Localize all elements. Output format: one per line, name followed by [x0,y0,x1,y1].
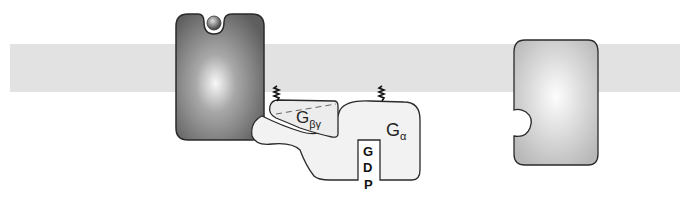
active-receptor [176,14,264,140]
g-alpha-label: G [386,120,400,140]
gdp-letter-g: G [363,144,373,159]
g-alpha-subscript: α [400,130,407,142]
gdp-letter-p: P [364,177,373,192]
gpcr-diagram: Gα G D P Gβγ [0,0,687,200]
g-beta-gamma-subscript: βγ [309,118,321,130]
inactive-receptor [514,40,598,165]
gdp-letter-d: D [363,160,372,175]
ligand [207,16,221,30]
g-beta-gamma-label: G [296,108,309,127]
